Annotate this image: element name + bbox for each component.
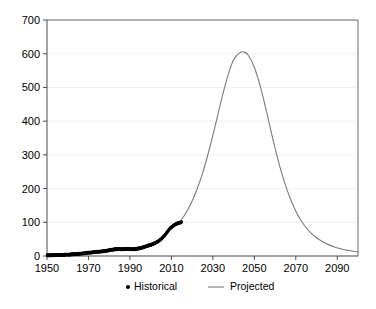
chart-container: 0100200300400500600700 19501970199020102… [0, 0, 376, 309]
y-tick-label: 600 [22, 48, 40, 60]
gridlines-group [47, 20, 358, 256]
x-tick-label: 2050 [242, 262, 266, 274]
x-tick-label: 1990 [118, 262, 142, 274]
y-tick-label: 0 [34, 250, 40, 262]
x-tick-label: 1950 [35, 262, 59, 274]
series-historical [46, 220, 183, 257]
y-tick-label: 500 [22, 81, 40, 93]
y-tick-label: 200 [22, 183, 40, 195]
y-axis-labels: 0100200300400500600700 [22, 14, 40, 262]
x-axis-ticks [47, 256, 337, 260]
historical-point [181, 221, 183, 223]
y-tick-label: 100 [22, 216, 40, 228]
x-tick-label: 2030 [201, 262, 225, 274]
legend-label-historical: Historical [134, 280, 177, 292]
legend-marker-historical [126, 285, 130, 289]
x-axis-labels: 19501970199020102030205020702090 [35, 262, 350, 274]
y-axis-ticks [43, 20, 47, 256]
y-tick-label: 700 [22, 14, 40, 26]
y-tick-label: 400 [22, 115, 40, 127]
x-tick-label: 1970 [76, 262, 100, 274]
x-tick-label: 2090 [325, 262, 349, 274]
y-tick-label: 300 [22, 149, 40, 161]
x-tick-label: 2070 [284, 262, 308, 274]
chart-plot-area: 0100200300400500600700 19501970199020102… [0, 0, 376, 309]
legend-label-projected: Projected [230, 280, 275, 292]
plot-frame [47, 20, 358, 256]
x-tick-label: 2010 [159, 262, 183, 274]
chart-legend: HistoricalProjected [126, 280, 275, 292]
